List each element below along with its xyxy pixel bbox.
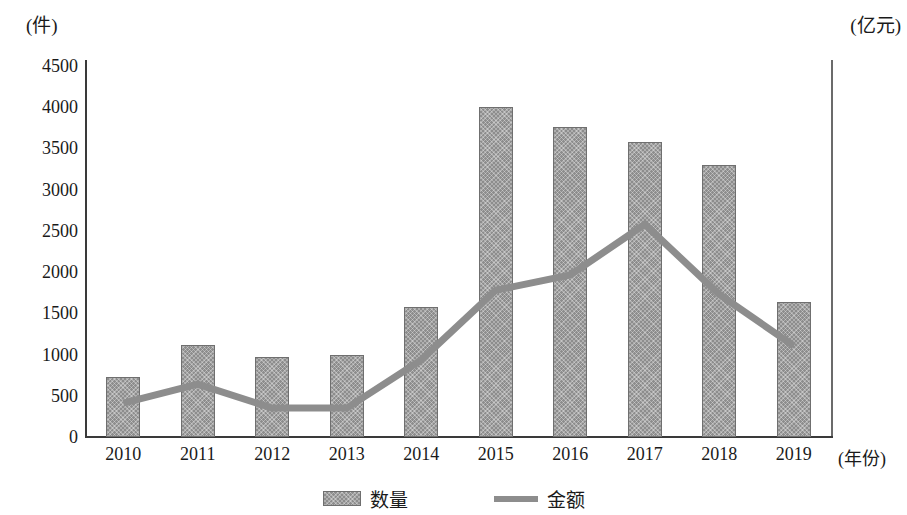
- y-axis-tick-labels: 050010001500200025003000350040004500: [0, 0, 78, 515]
- y-axis-tick-label: 1500: [42, 303, 78, 324]
- x-axis-tick-label: 2019: [776, 444, 812, 465]
- secondary-y-axis-line: [831, 60, 833, 438]
- y-axis-tick-label: 2000: [42, 262, 78, 283]
- line-series-amount: [86, 66, 831, 437]
- y-axis-tick-label: 4000: [42, 97, 78, 118]
- x-axis-tick-label: 2015: [478, 444, 514, 465]
- bar-line-chart: (件) (亿元) 0500100015002000250030003500400…: [0, 0, 907, 515]
- x-axis-unit-label: (年份): [838, 444, 886, 470]
- legend-item-amount: 金额: [494, 485, 585, 512]
- chart-legend: 数量 金额: [0, 482, 907, 515]
- x-axis-tick-label: 2016: [552, 444, 588, 465]
- x-axis-tick-label: 2014: [403, 444, 439, 465]
- legend-item-quantity: 数量: [323, 485, 408, 512]
- x-axis-tick-label: 2012: [254, 444, 290, 465]
- secondary-y-axis-unit-label: (亿元): [850, 10, 901, 37]
- legend-label-amount: 金额: [547, 485, 585, 512]
- y-axis-tick-label: 4500: [42, 56, 78, 77]
- x-axis-tick-label: 2013: [329, 444, 365, 465]
- y-axis-tick-label: 0: [69, 427, 78, 448]
- plot-area: [86, 66, 831, 437]
- legend-label-quantity: 数量: [370, 485, 408, 512]
- x-axis-tick-label: 2010: [105, 444, 141, 465]
- line-swatch-icon: [494, 496, 538, 502]
- y-axis-tick-label: 3500: [42, 138, 78, 159]
- y-axis-tick-label: 3000: [42, 179, 78, 200]
- x-axis-tick-label: 2018: [701, 444, 737, 465]
- y-axis-tick-label: 1000: [42, 344, 78, 365]
- y-axis-tick-label: 2500: [42, 220, 78, 241]
- x-axis-tick-label: 2017: [627, 444, 663, 465]
- x-axis-tick-label: 2011: [180, 444, 215, 465]
- y-axis-tick-label: 500: [51, 385, 78, 406]
- bar-swatch-icon: [323, 491, 361, 506]
